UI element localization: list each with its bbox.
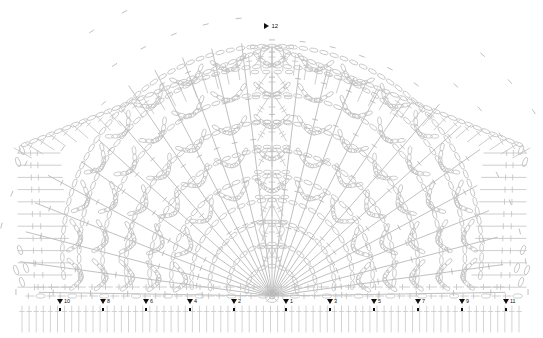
triangle-up-icon xyxy=(371,299,377,304)
row-marker-1: 1 xyxy=(283,299,293,304)
triangle-up-icon xyxy=(415,299,421,304)
row-marker-10: 10 xyxy=(57,299,70,304)
triangle-up-icon xyxy=(231,299,237,304)
row-marker-label: 9 xyxy=(466,299,469,304)
row-marker-11: 11 xyxy=(503,299,516,304)
row-marker-2: 2 xyxy=(231,299,241,304)
triangle-up-icon xyxy=(459,299,465,304)
row-marker-label: 6 xyxy=(150,299,153,304)
row-marker-3: 3 xyxy=(327,299,337,304)
row-marker-label: 2 xyxy=(238,299,241,304)
row-marker-label: 12 xyxy=(272,23,279,29)
row-marker-7: 7 xyxy=(415,299,425,304)
row-marker-5: 5 xyxy=(371,299,381,304)
row-marker-label: 5 xyxy=(378,299,381,304)
crochet-chart-canvas: 12 1086421357911 xyxy=(0,0,543,338)
triangle-up-icon xyxy=(503,299,509,304)
triangle-left-icon xyxy=(264,23,269,29)
row-marker-8: 8 xyxy=(100,299,110,304)
triangle-up-icon xyxy=(283,299,289,304)
crochet-diagram xyxy=(0,0,543,338)
row-marker-4: 4 xyxy=(187,299,197,304)
row-marker-6: 6 xyxy=(143,299,153,304)
triangle-up-icon xyxy=(57,299,63,304)
row-marker-label: 7 xyxy=(422,299,425,304)
triangle-up-icon xyxy=(327,299,333,304)
row-marker-label: 1 xyxy=(290,299,293,304)
row-marker-label: 4 xyxy=(194,299,197,304)
row-marker-label: 3 xyxy=(334,299,337,304)
row-marker-12: 12 xyxy=(264,23,278,29)
triangle-up-icon xyxy=(100,299,106,304)
triangle-up-icon xyxy=(143,299,149,304)
triangle-up-icon xyxy=(187,299,193,304)
row-marker-label: 10 xyxy=(64,299,70,304)
row-marker-label: 8 xyxy=(107,299,110,304)
row-marker-9: 9 xyxy=(459,299,469,304)
row-marker-label: 11 xyxy=(510,299,516,304)
